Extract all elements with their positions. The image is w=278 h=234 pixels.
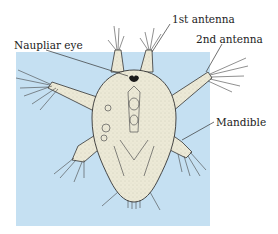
larva-body xyxy=(92,70,176,210)
second-antenna-right xyxy=(168,58,248,112)
label-mandible: Mandible xyxy=(216,117,266,128)
leader-first-antenna xyxy=(152,24,170,52)
first-antenna-right xyxy=(140,28,161,72)
label-first-antenna: 1st antenna xyxy=(172,14,235,25)
label-second-antenna: 2nd antenna xyxy=(196,34,263,45)
second-antenna-left xyxy=(16,70,100,112)
first-antenna-left xyxy=(108,26,124,72)
leader-mandible xyxy=(182,122,214,140)
label-naupliar-eye: Naupliar eye xyxy=(14,40,83,51)
mandible-left xyxy=(54,132,100,182)
leader-second-antenna xyxy=(206,44,222,72)
